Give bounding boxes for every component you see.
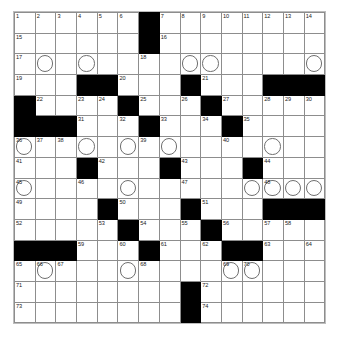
crossword-cell[interactable] [180, 33, 201, 54]
crossword-cell[interactable] [221, 178, 242, 199]
crossword-cell[interactable]: 16 [159, 33, 180, 54]
crossword-cell[interactable] [221, 157, 242, 178]
crossword-cell[interactable]: 71 [15, 281, 36, 302]
crossword-cell[interactable] [304, 137, 325, 158]
crossword-cell[interactable]: 67 [56, 261, 77, 282]
crossword-cell[interactable]: 53 [97, 219, 118, 240]
crossword-cell[interactable]: 33 [159, 116, 180, 137]
crossword-cell[interactable]: 39 [139, 137, 160, 158]
crossword-cell[interactable] [221, 302, 242, 323]
crossword-cell[interactable]: 40 [221, 137, 242, 158]
crossword-cell[interactable]: 13 [283, 13, 304, 34]
crossword-cell[interactable] [56, 95, 77, 116]
crossword-cell[interactable]: 30 [304, 95, 325, 116]
crossword-cell[interactable]: 59 [77, 240, 98, 261]
crossword-cell[interactable] [56, 54, 77, 75]
crossword-cell[interactable]: 32 [118, 116, 139, 137]
crossword-cell[interactable]: 18 [139, 54, 160, 75]
crossword-cell[interactable] [118, 281, 139, 302]
crossword-cell[interactable] [263, 116, 284, 137]
crossword-cell[interactable] [56, 178, 77, 199]
crossword-cell[interactable] [201, 157, 222, 178]
crossword-cell[interactable]: 4 [77, 13, 98, 34]
crossword-cell[interactable] [159, 178, 180, 199]
crossword-cell[interactable] [56, 281, 77, 302]
crossword-cell[interactable] [242, 95, 263, 116]
crossword-cell[interactable] [180, 261, 201, 282]
crossword-cell[interactable] [180, 116, 201, 137]
crossword-cell[interactable]: 46 [77, 178, 98, 199]
crossword-cell[interactable]: 3 [56, 13, 77, 34]
crossword-cell[interactable]: 21 [201, 75, 222, 96]
crossword-cell[interactable] [283, 157, 304, 178]
crossword-cell[interactable]: 23 [77, 95, 98, 116]
crossword-cell[interactable]: 34 [201, 116, 222, 137]
crossword-cell[interactable]: 22 [35, 95, 56, 116]
crossword-cell[interactable] [221, 281, 242, 302]
crossword-cell[interactable] [263, 261, 284, 282]
crossword-cell[interactable]: 43 [180, 157, 201, 178]
crossword-cell[interactable] [242, 281, 263, 302]
crossword-cell[interactable] [283, 33, 304, 54]
crossword-cell[interactable] [283, 54, 304, 75]
crossword-cell[interactable] [56, 199, 77, 220]
crossword-cell[interactable]: 55 [180, 219, 201, 240]
crossword-cell[interactable] [221, 199, 242, 220]
crossword-cell[interactable]: 19 [15, 75, 36, 96]
crossword-cell[interactable]: 68 [139, 261, 160, 282]
crossword-cell[interactable]: 37 [35, 137, 56, 158]
crossword-cell[interactable] [159, 199, 180, 220]
crossword-cell[interactable] [159, 95, 180, 116]
crossword-cell[interactable]: 8 [180, 13, 201, 34]
crossword-cell[interactable] [77, 33, 98, 54]
crossword-cell[interactable] [118, 54, 139, 75]
crossword-cell[interactable] [201, 33, 222, 54]
crossword-cell[interactable] [97, 178, 118, 199]
crossword-cell[interactable] [242, 75, 263, 96]
crossword-cell[interactable]: 31 [77, 116, 98, 137]
crossword-cell[interactable] [242, 219, 263, 240]
crossword-cell[interactable] [139, 157, 160, 178]
crossword-cell[interactable]: 1 [15, 13, 36, 34]
crossword-cell[interactable] [97, 137, 118, 158]
crossword-cell[interactable] [201, 178, 222, 199]
crossword-cell[interactable] [283, 302, 304, 323]
crossword-cell[interactable]: 6 [118, 13, 139, 34]
crossword-cell[interactable] [35, 302, 56, 323]
crossword-cell[interactable]: 74 [201, 302, 222, 323]
crossword-cell[interactable]: 24 [97, 95, 118, 116]
crossword-cell[interactable]: 12 [263, 13, 284, 34]
crossword-cell[interactable] [242, 33, 263, 54]
crossword-cell[interactable]: 7 [159, 13, 180, 34]
crossword-cell[interactable]: 64 [304, 240, 325, 261]
crossword-cell[interactable] [159, 281, 180, 302]
crossword-cell[interactable] [118, 157, 139, 178]
crossword-cell[interactable]: 57 [263, 219, 284, 240]
crossword-cell[interactable] [263, 54, 284, 75]
crossword-cell[interactable]: 51 [201, 199, 222, 220]
crossword-cell[interactable] [242, 302, 263, 323]
crossword-cell[interactable]: 25 [139, 95, 160, 116]
crossword-cell[interactable] [201, 261, 222, 282]
crossword-cell[interactable]: 28 [263, 95, 284, 116]
crossword-cell[interactable] [283, 240, 304, 261]
crossword-cell[interactable] [97, 302, 118, 323]
crossword-cell[interactable]: 5 [97, 13, 118, 34]
crossword-cell[interactable] [56, 219, 77, 240]
crossword-cell[interactable] [97, 54, 118, 75]
crossword-cell[interactable] [201, 137, 222, 158]
crossword-cell[interactable]: 62 [201, 240, 222, 261]
crossword-cell[interactable]: 72 [201, 281, 222, 302]
crossword-cell[interactable] [35, 219, 56, 240]
crossword-cell[interactable]: 17 [15, 54, 36, 75]
crossword-cell[interactable]: 44 [263, 157, 284, 178]
crossword-cell[interactable] [35, 75, 56, 96]
crossword-cell[interactable] [159, 261, 180, 282]
crossword-cell[interactable]: 2 [35, 13, 56, 34]
crossword-cell[interactable] [180, 240, 201, 261]
crossword-cell[interactable]: 48 [263, 178, 284, 199]
crossword-cell[interactable]: 10 [221, 13, 242, 34]
crossword-cell[interactable] [97, 261, 118, 282]
crossword-cell[interactable] [283, 116, 304, 137]
crossword-cell[interactable] [304, 116, 325, 137]
